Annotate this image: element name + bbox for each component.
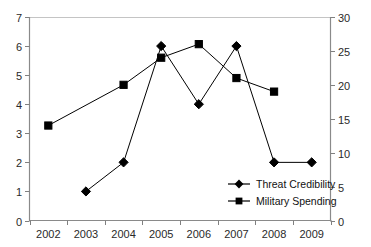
data-point-square [270, 88, 277, 95]
right-tick-label: 25 [338, 46, 350, 58]
x-tick-label: 2007 [224, 228, 248, 240]
x-tick-label: 2002 [36, 228, 60, 240]
x-tick-label: 2006 [187, 228, 211, 240]
dual-axis-line-chart: 01234567 051015202530 200220032004200520… [0, 0, 371, 247]
left-tick-label: 5 [16, 70, 22, 82]
x-tick-label: 2004 [111, 228, 135, 240]
left-tick-label: 2 [16, 157, 22, 169]
right-tick-label: 20 [338, 80, 350, 92]
x-tick-label: 2003 [74, 228, 98, 240]
legend-marker-square [236, 198, 243, 205]
x-tick-label: 2009 [299, 228, 323, 240]
data-point-square [45, 122, 52, 129]
right-tick-label: 5 [338, 182, 344, 194]
left-tick-label: 1 [16, 186, 22, 198]
chart-container: 01234567 051015202530 200220032004200520… [0, 0, 371, 247]
x-tick-label: 2008 [262, 228, 286, 240]
legend-label-threat-credibility: Threat Credibility [256, 178, 336, 190]
data-point-square [233, 74, 240, 81]
left-tick-label: 4 [16, 99, 22, 111]
left-tick-label: 7 [16, 12, 22, 24]
right-tick-label: 10 [338, 148, 350, 160]
legend-label-military-spending: Military Spending [256, 195, 337, 207]
right-tick-label: 0 [338, 216, 344, 228]
data-point-square [158, 54, 165, 61]
left-tick-label: 3 [16, 128, 22, 140]
chart-background [0, 0, 371, 247]
right-tick-label: 30 [338, 12, 350, 24]
data-point-square [195, 41, 202, 48]
data-point-square [120, 81, 127, 88]
x-tick-label: 2005 [149, 228, 173, 240]
left-tick-label: 6 [16, 41, 22, 53]
left-tick-label: 0 [16, 216, 22, 228]
right-tick-label: 15 [338, 114, 350, 126]
